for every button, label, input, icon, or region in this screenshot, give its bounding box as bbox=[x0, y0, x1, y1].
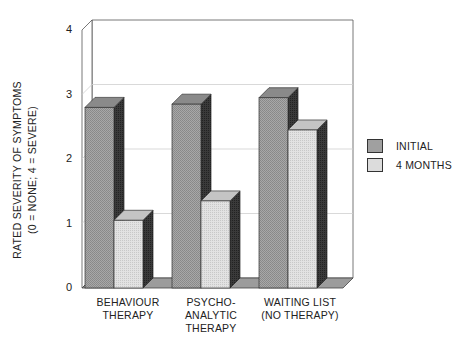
legend-label-4-months: 4 MONTHS bbox=[396, 159, 452, 171]
legend-swatch-initial bbox=[367, 139, 383, 153]
legend: INITIAL 4 MONTHS bbox=[367, 136, 452, 174]
bar-0-1 bbox=[114, 210, 153, 288]
y-tick-1: 1 bbox=[58, 217, 72, 229]
x-category-label-1: PSYCHO-ANALYTICTHERAPY bbox=[161, 296, 261, 335]
legend-label-initial: INITIAL bbox=[396, 140, 433, 152]
bars bbox=[85, 88, 327, 288]
y-axis-label-line-2: (0 = NONE; 4 = SEVERE) bbox=[25, 60, 40, 280]
legend-item-initial: INITIAL bbox=[367, 136, 452, 155]
y-tick-4: 4 bbox=[58, 23, 72, 35]
legend-swatch-4-months bbox=[367, 158, 383, 172]
legend-item-4-months: 4 MONTHS bbox=[367, 155, 452, 174]
y-tick-2: 2 bbox=[58, 152, 72, 164]
bar-2-1 bbox=[288, 120, 327, 288]
y-tick-3: 3 bbox=[58, 88, 72, 100]
y-tick-0: 0 bbox=[58, 281, 72, 293]
y-axis-label: RATED SEVERITY OF SYMPTOMS (0 = NONE; 4 … bbox=[10, 60, 50, 280]
x-category-label-2: WAITING LIST(NO THERAPY) bbox=[250, 296, 350, 322]
bar-1-1 bbox=[201, 191, 240, 288]
y-axis-label-line-1: RATED SEVERITY OF SYMPTOMS bbox=[10, 60, 25, 280]
